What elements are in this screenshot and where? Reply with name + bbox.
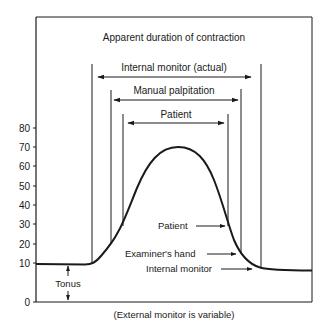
y-tick-10: 10 (19, 258, 31, 269)
y-tick-60: 60 (19, 161, 31, 172)
y-tick-0: 0 (24, 297, 30, 308)
contraction-duration-chart: 80 70 60 50 40 30 20 10 0 Apparent durat… (0, 0, 326, 325)
tonus-label: Tonus (55, 278, 81, 289)
y-tick-70: 70 (19, 142, 31, 153)
examiner-pointer-label: Examiner's hand (125, 248, 195, 259)
y-tick-50: 50 (19, 181, 31, 192)
patient-pointer-label: Patient (158, 220, 188, 231)
internal-pointer-label: Internal monitor (146, 263, 212, 274)
manual-palpitation-label: Manual palpitation (133, 85, 214, 96)
internal-actual-label: Internal monitor (actual) (121, 62, 227, 73)
y-tick-30: 30 (19, 219, 31, 230)
chart-title: Apparent duration of contraction (103, 32, 245, 43)
chart-caption: (External monitor is variable) (114, 309, 235, 320)
y-tick-80: 80 (19, 123, 31, 134)
patient-duration-label: Patient (160, 109, 191, 120)
y-tick-20: 20 (19, 239, 31, 250)
y-tick-40: 40 (19, 200, 31, 211)
y-axis-labels: 80 70 60 50 40 30 20 10 0 (19, 123, 31, 308)
plot-frame (36, 17, 312, 302)
